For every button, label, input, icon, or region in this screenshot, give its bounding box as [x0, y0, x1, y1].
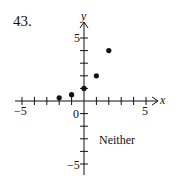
data-point: [69, 92, 74, 97]
data-point: [81, 86, 86, 91]
y-tick-label-pos5: 5: [74, 31, 80, 45]
answer-label: Neither: [99, 133, 135, 147]
data-point: [106, 48, 111, 53]
x-tick-label-neg5: −5: [14, 104, 27, 118]
y-tick-label-neg5: −5: [67, 158, 80, 172]
data-point: [57, 95, 62, 100]
data-point: [94, 73, 99, 78]
scatter-plot: x y −5 5 0 5 −5 Neither: [0, 0, 178, 185]
axes: [15, 22, 158, 175]
y-axis-label: y: [80, 9, 87, 23]
origin-label: 0: [73, 107, 79, 121]
x-tick-label-pos5: 5: [142, 104, 148, 118]
x-axis-label: x: [159, 93, 166, 107]
